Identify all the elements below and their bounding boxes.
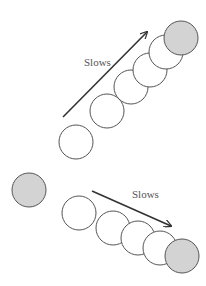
motion-diagram: Slows Slows <box>0 0 206 286</box>
ball <box>59 125 93 159</box>
upper-ball-sequence <box>59 21 198 159</box>
lower-slows-label: Slows <box>132 188 159 200</box>
ball <box>164 21 198 55</box>
upper-slows-label: Slows <box>84 56 111 68</box>
ball <box>62 196 96 230</box>
diagram-canvas: Slows Slows <box>0 0 206 286</box>
ball <box>165 239 199 273</box>
start-ball <box>12 173 46 207</box>
